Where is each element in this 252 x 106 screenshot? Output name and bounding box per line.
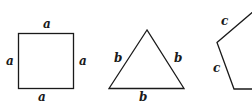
pentagon-label-lower-left: c [213,61,221,75]
geometry-figure: a a a a b b b c c [0,0,252,106]
square-label-bottom: a [38,90,46,104]
triangle-label-right: b [174,51,182,65]
pentagon-shape: c c [213,11,252,89]
shapes-canvas: a a a a b b b c c [0,0,252,106]
square-label-left: a [6,54,14,68]
pentagon-label-upper-left: c [221,14,229,28]
square-label-right: a [79,54,87,68]
triangle-shape: b b b [109,30,184,104]
square-outline [19,34,74,89]
triangle-label-bottom: b [139,90,147,104]
square-shape: a a a a [6,17,87,104]
triangle-label-left: b [114,51,122,65]
square-label-top: a [43,17,51,31]
